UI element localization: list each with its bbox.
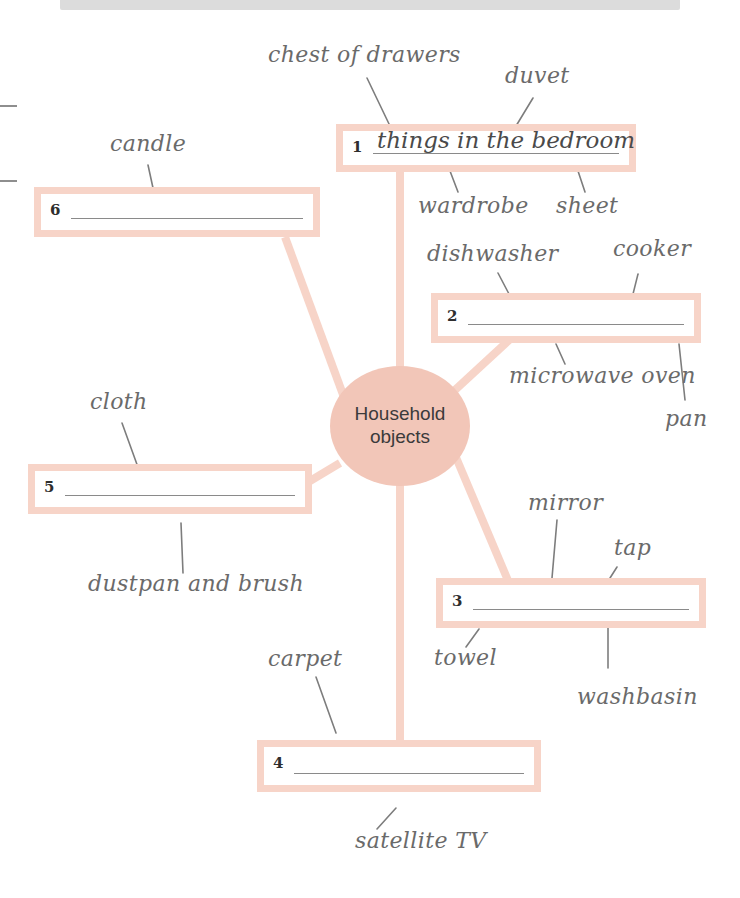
- answer-box-4-rule: [294, 773, 524, 774]
- answer-box-6[interactable]: 6: [34, 187, 320, 237]
- word-microwave-oven[interactable]: microwave oven: [509, 363, 696, 388]
- answer-box-4[interactable]: 4: [257, 740, 541, 792]
- answer-box-3[interactable]: 3: [436, 578, 706, 628]
- word-wardrobe[interactable]: wardrobe: [418, 193, 529, 218]
- answer-box-2-rule: [468, 324, 684, 325]
- answer-box-2[interactable]: 2: [431, 293, 701, 343]
- answer-box-5-number: 5: [44, 478, 54, 496]
- word-chest-of-drawers[interactable]: chest of drawers: [268, 42, 461, 67]
- word-sheet[interactable]: sheet: [556, 193, 618, 218]
- answer-box-6-rule: [71, 218, 303, 219]
- central-topic-bubble: Household objects: [330, 366, 470, 486]
- answer-box-3-number: 3: [452, 592, 462, 610]
- worksheet-page: Household objects 1 things in the bedroo…: [0, 0, 740, 898]
- word-towel[interactable]: towel: [434, 645, 497, 670]
- central-topic-line-1: Household: [355, 403, 446, 426]
- answer-box-1-rule: [373, 153, 619, 154]
- word-dishwasher[interactable]: dishwasher: [427, 241, 559, 266]
- central-topic-line-2: objects: [355, 426, 446, 449]
- answer-box-5-rule: [65, 495, 295, 496]
- word-duvet[interactable]: duvet: [505, 63, 570, 88]
- word-pan[interactable]: pan: [665, 406, 708, 431]
- word-carpet[interactable]: carpet: [268, 646, 342, 671]
- answer-box-1-text: things in the bedroom: [377, 127, 635, 153]
- answer-box-2-number: 2: [447, 307, 457, 325]
- word-tap[interactable]: tap: [614, 535, 651, 560]
- answer-box-3-rule: [473, 609, 689, 610]
- word-cloth[interactable]: cloth: [90, 389, 148, 414]
- word-cooker[interactable]: cooker: [613, 236, 691, 261]
- answer-box-1-number: 1: [352, 138, 362, 156]
- answer-box-6-number: 6: [50, 201, 60, 219]
- word-dustpan-and-brush[interactable]: dustpan and brush: [88, 571, 304, 596]
- word-satellite-tv[interactable]: satellite TV: [355, 828, 487, 853]
- word-washbasin[interactable]: washbasin: [577, 684, 698, 709]
- word-mirror[interactable]: mirror: [528, 490, 603, 515]
- answer-box-4-number: 4: [273, 754, 283, 772]
- answer-box-5[interactable]: 5: [28, 464, 312, 514]
- word-candle[interactable]: candle: [110, 131, 186, 156]
- answer-box-1[interactable]: 1 things in the bedroom: [336, 124, 636, 172]
